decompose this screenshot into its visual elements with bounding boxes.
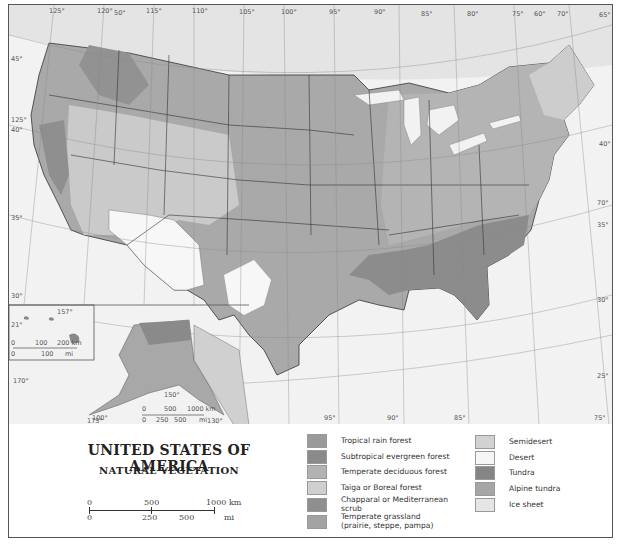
svg-text:0: 0: [11, 350, 15, 358]
svg-text:250: 250: [156, 416, 168, 424]
scale-mi-500: 500: [179, 513, 194, 522]
swatch: [307, 434, 327, 448]
svg-text:40°: 40°: [11, 126, 23, 134]
swatch: [475, 498, 495, 512]
svg-text:95°: 95°: [324, 414, 336, 422]
legend-item-chapparal: Chapparal or Mediterranean scrub: [307, 496, 451, 513]
svg-text:500: 500: [164, 405, 176, 413]
svg-text:30°: 30°: [11, 292, 23, 300]
swatch: [475, 482, 495, 496]
legend-item-tropical-rain-forest: Tropical rain forest: [307, 434, 411, 448]
svg-text:110°: 110°: [192, 7, 208, 15]
svg-text:100: 100: [41, 350, 53, 358]
svg-text:120°: 120°: [97, 7, 113, 15]
svg-text:75°: 75°: [512, 10, 524, 18]
swatch: [307, 498, 327, 512]
swatch: [307, 465, 327, 479]
svg-text:85°: 85°: [454, 414, 466, 422]
legend-item-subtropical-evergreen-forest: Subtropical evergreen forest: [307, 450, 449, 464]
svg-text:95°: 95°: [329, 8, 341, 16]
svg-text:70°: 70°: [557, 10, 569, 18]
vegetation-map: 125°120°50° 115°110°105° 100°95°90° 85°8…: [8, 4, 613, 426]
swatch: [307, 515, 327, 529]
svg-text:170°: 170°: [13, 377, 29, 385]
swatch: [307, 450, 327, 464]
scale-mi-unit: mi: [224, 513, 234, 522]
scale-km-0: 0: [87, 498, 92, 507]
inset-hawaii: 21° 157° 0100200 km 0100mi: [9, 305, 94, 360]
swatch: [307, 481, 327, 495]
svg-text:100°: 100°: [281, 8, 297, 16]
svg-text:60°: 60°: [534, 10, 546, 18]
svg-text:1000 km: 1000 km: [187, 405, 216, 413]
svg-text:90°: 90°: [374, 8, 386, 16]
svg-text:mi: mi: [65, 350, 73, 358]
scale-km-1000: 1000 km: [206, 498, 241, 507]
legend-item-tundra: Tundra: [475, 466, 535, 480]
legend-item-temperate-grassland: Temperate grassland (prairie, steppe, pa…: [307, 513, 451, 530]
svg-text:80°: 80°: [467, 10, 479, 18]
legend-item-desert: Desert: [475, 451, 534, 465]
swatch: [475, 435, 495, 449]
scale-mi-0: 0: [87, 513, 92, 522]
svg-text:157°: 157°: [57, 308, 73, 316]
scale-km-500: 500: [144, 498, 159, 507]
legend-item-ice-sheet: Ice sheet: [475, 498, 544, 512]
svg-text:50°: 50°: [114, 9, 126, 17]
swatch: [475, 466, 495, 480]
svg-text:70°: 70°: [597, 199, 609, 207]
svg-text:85°: 85°: [421, 10, 433, 18]
svg-text:90°: 90°: [387, 414, 399, 422]
svg-text:0: 0: [142, 405, 146, 413]
svg-text:115°: 115°: [146, 7, 162, 15]
swatch: [475, 451, 495, 465]
svg-text:30°: 30°: [597, 296, 609, 304]
svg-text:500: 500: [174, 416, 186, 424]
legend-item-taiga: Taiga or Boreal forest: [307, 481, 422, 495]
scale-bar: 0 500 1000 km 0 250 500 mi: [84, 500, 234, 530]
svg-text:45°: 45°: [11, 55, 23, 63]
svg-text:35°: 35°: [11, 214, 23, 222]
svg-text:0: 0: [142, 416, 146, 424]
legend-item-temperate-deciduous-forest: Temperate deciduous forest: [307, 465, 447, 479]
legend-item-semidesert: Semidesert: [475, 435, 552, 449]
svg-text:21°: 21°: [11, 321, 23, 329]
svg-text:40°: 40°: [599, 140, 611, 148]
svg-text:mi: mi: [199, 416, 207, 424]
svg-text:125°: 125°: [49, 7, 65, 15]
svg-text:25°: 25°: [597, 372, 609, 380]
svg-text:100: 100: [35, 339, 47, 347]
svg-text:150°: 150°: [164, 391, 180, 399]
map-graphic: 125°120°50° 115°110°105° 100°95°90° 85°8…: [9, 5, 612, 425]
map-subtitle: NATURAL VEGETATION: [69, 465, 269, 476]
svg-text:0: 0: [11, 339, 15, 347]
legend-panel: UNITED STATES OF AMERICA NATURAL VEGETAT…: [8, 424, 613, 538]
svg-text:200 km: 200 km: [57, 339, 82, 347]
svg-text:65°: 65°: [599, 11, 611, 19]
scale-mi-250: 250: [142, 513, 157, 522]
svg-text:125°: 125°: [11, 116, 27, 124]
legend-item-alpine-tundra: Alpine tundra: [475, 482, 560, 496]
svg-text:105°: 105°: [239, 8, 255, 16]
svg-text:35°: 35°: [597, 221, 609, 229]
svg-text:75°: 75°: [594, 414, 606, 422]
